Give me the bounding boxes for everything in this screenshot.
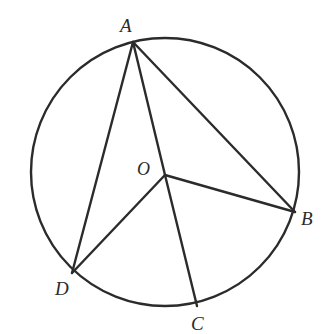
geometry-canvas: [0, 0, 327, 334]
center-label-o: O: [137, 160, 150, 178]
segment-a-o: [133, 42, 165, 175]
vertex-label-c: C: [191, 314, 204, 333]
vertex-label-d: D: [55, 279, 69, 298]
vertex-label-a: A: [120, 16, 132, 35]
geometry-figure: A B C D O: [0, 0, 327, 334]
segment-o-b: [165, 175, 295, 212]
segment-a-b: [133, 42, 295, 212]
vertex-label-b: B: [301, 209, 313, 228]
segment-o-c: [165, 175, 197, 306]
segment-a-d: [72, 42, 133, 273]
